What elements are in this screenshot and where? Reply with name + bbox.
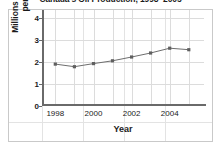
data-series — [42, 10, 204, 106]
y-axis-label-line2: per Day — [20, 0, 30, 40]
data-point-marker — [149, 51, 152, 54]
data-point-marker — [168, 47, 171, 50]
x-tick-label: 2002 — [123, 109, 141, 118]
plot-area: 01234 1998200020022004 — [42, 10, 204, 106]
y-axis-label-line1: Millions of Barrels — [10, 0, 20, 40]
data-point-marker — [111, 59, 114, 62]
x-tick-label: 2004 — [161, 109, 179, 118]
x-tick-label: 1998 — [46, 109, 64, 118]
y-axis-label: Millions of Barrels per Day — [10, 0, 36, 40]
chart-figure: Canada's Oil Production, 1998–2005 Milli… — [0, 0, 221, 150]
y-tick-mark — [39, 106, 42, 107]
data-point-marker — [187, 48, 190, 51]
x-axis-label: Year — [42, 124, 204, 134]
data-point-marker — [92, 62, 95, 65]
x-tick-label: 2000 — [85, 109, 103, 118]
panel-gridline-h — [9, 122, 212, 123]
data-point-marker — [130, 55, 133, 58]
data-point-marker — [54, 63, 57, 66]
data-point-marker — [73, 65, 76, 68]
series-line — [55, 48, 189, 66]
